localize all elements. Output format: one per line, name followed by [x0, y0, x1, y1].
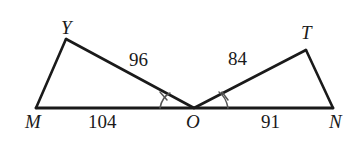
measure-label-YO: 96 [129, 50, 148, 69]
angle-mark-YOM [160, 92, 170, 108]
segment-MY [36, 39, 66, 108]
measure-label-OT: 84 [228, 49, 247, 68]
segment-OT [194, 50, 306, 108]
vertex-label-T: T [301, 23, 312, 42]
measure-label-MO: 104 [88, 112, 117, 131]
vertex-label-Y: Y [61, 18, 72, 37]
measure-label-ON: 91 [261, 112, 280, 131]
vertex-label-N: N [329, 112, 342, 131]
geometry-figure: Y T M O N 96 84 104 91 [0, 0, 360, 153]
vertex-label-M: M [25, 112, 41, 131]
vertex-label-O: O [186, 112, 200, 131]
segment-TN [306, 50, 333, 108]
